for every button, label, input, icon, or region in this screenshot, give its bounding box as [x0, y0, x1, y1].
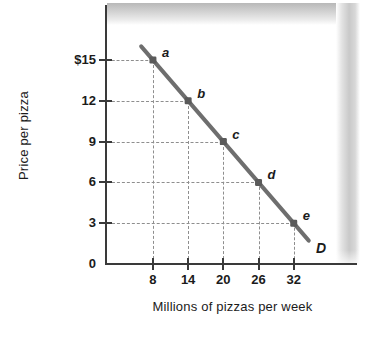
y-tick-label: $15	[74, 52, 96, 67]
scan-shadow-right	[336, 3, 360, 265]
guide-line-vertical	[223, 142, 224, 264]
x-tick-mark	[187, 258, 189, 270]
x-tick-label: 20	[203, 272, 243, 287]
curve-label-D: D	[316, 240, 326, 256]
x-tick-mark	[222, 258, 224, 270]
guide-line-horizontal	[107, 142, 223, 143]
x-tick-mark	[258, 258, 260, 270]
data-point-label-b: b	[197, 86, 205, 101]
y-tick-label: 0	[89, 256, 96, 271]
data-point-label-a: a	[162, 45, 169, 60]
y-axis-tick-labels: $15129630	[40, 0, 96, 300]
x-tick-label: 8	[133, 272, 173, 287]
y-tick-label: 12	[82, 93, 96, 108]
y-tick-mark	[99, 181, 112, 183]
y-tick-mark	[99, 222, 112, 224]
chart-figure: $15129630 814202632 abcde D Price per pi…	[0, 0, 372, 337]
x-axis-line	[105, 263, 357, 265]
y-tick-label: 3	[89, 215, 96, 230]
guide-line-horizontal	[107, 101, 188, 102]
scan-shadow-right-fade	[336, 250, 360, 268]
guide-line-horizontal	[107, 60, 153, 61]
y-tick-label: 9	[89, 134, 96, 149]
x-tick-label: 14	[168, 272, 208, 287]
y-axis-line	[105, 5, 107, 265]
guide-line-horizontal	[107, 182, 259, 183]
data-point-label-c: c	[232, 127, 239, 142]
guide-line-horizontal	[107, 223, 294, 224]
y-tick-mark	[99, 141, 112, 143]
demand-curve-line	[141, 46, 309, 240]
scan-shadow-top	[107, 3, 357, 25]
x-tick-mark	[293, 258, 295, 270]
x-axis-title: Millions of pizzas per week	[95, 299, 370, 314]
guide-line-vertical	[153, 60, 154, 264]
y-tick-label: 6	[89, 174, 96, 189]
x-tick-mark	[152, 258, 154, 270]
x-tick-label: 32	[274, 272, 314, 287]
data-point-label-d: d	[268, 167, 276, 182]
y-tick-mark	[99, 100, 112, 102]
y-axis-title: Price per pizza	[16, 66, 31, 206]
data-point-label-e: e	[303, 208, 310, 223]
y-tick-mark	[99, 59, 112, 61]
x-tick-label: 26	[239, 272, 279, 287]
